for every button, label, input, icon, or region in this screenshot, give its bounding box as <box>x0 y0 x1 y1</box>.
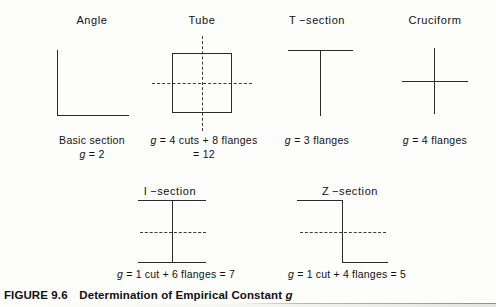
cruciform-caption: g = 4 flanges <box>375 134 495 146</box>
tube-square-outline <box>172 53 232 113</box>
i-section-bottom-flange <box>138 262 206 263</box>
i-section-web <box>172 200 173 262</box>
cruciform-heading: Cruciform <box>390 14 480 26</box>
figure-number: FIGURE 9.6 <box>4 289 68 301</box>
i-section-caption: g = 1 cut + 6 flanges = 7 <box>96 268 256 280</box>
z-section-top-flange <box>297 200 343 201</box>
figure-caption: FIGURE 9.6 Determination of Empirical Co… <box>4 289 293 301</box>
angle-caption-line2: g = 2 <box>32 148 152 160</box>
figure-title: Determination of Empirical Constant g <box>79 289 292 301</box>
angle-heading: Angle <box>52 14 132 26</box>
tube-caption-line1: g = 4 cuts + 8 flanges <box>139 134 269 146</box>
tube-heading: Tube <box>162 14 242 26</box>
z-section-heading: Z −section <box>305 185 395 197</box>
z-section-web <box>342 200 343 262</box>
i-section-heading: I −section <box>125 185 215 197</box>
tube-caption-line2: = 12 <box>139 148 269 160</box>
z-section-bottom-flange <box>342 262 388 263</box>
figure-page: Angle Basic section g = 2 Tube g = 4 cut… <box>0 0 496 307</box>
angle-vertical-leg <box>57 50 58 116</box>
angle-caption-line1: Basic section <box>32 134 152 146</box>
t-section-heading: T −section <box>272 14 362 26</box>
i-section-centerline <box>140 232 206 233</box>
cruciform-horizontal-line <box>402 81 468 82</box>
t-section-caption: g = 3 flanges <box>257 134 377 146</box>
angle-horizontal-leg <box>57 115 129 116</box>
z-section-centerline <box>300 232 386 233</box>
z-section-caption: g = 1 cut + 4 flanges = 5 <box>262 268 432 280</box>
t-section-web <box>320 50 321 116</box>
